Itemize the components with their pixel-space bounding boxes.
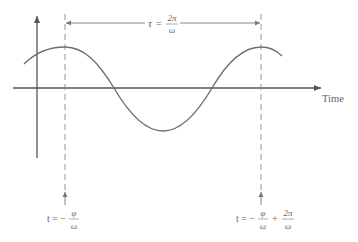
period-plus: +: [272, 213, 278, 224]
tau-equals: =: [156, 18, 162, 29]
period-marker-label: t = − φ ω + 2π ω: [236, 208, 294, 231]
sinusoid-diagram: τ = 2π ω Time t = − φ ω t = − φ ω + 2π ω: [0, 0, 358, 242]
x-axis-label: Time: [322, 93, 344, 104]
tau-denominator: ω: [169, 25, 175, 35]
phase-t: t: [47, 213, 50, 224]
period-t: t: [236, 213, 239, 224]
tau-numerator: 2π: [167, 13, 177, 23]
phase-denominator: ω: [71, 221, 77, 231]
phase-eq: = −: [52, 213, 66, 224]
period-frac2-numerator: 2π: [283, 208, 293, 218]
period-frac2-denominator: ω: [285, 221, 291, 231]
phase-numerator: φ: [72, 208, 77, 218]
period-label: τ = 2π ω: [148, 13, 178, 35]
period-frac1-numerator: φ: [261, 208, 266, 218]
sinusoid-curve: [24, 47, 282, 131]
period-frac1-denominator: ω: [260, 221, 266, 231]
tau-symbol: τ: [148, 17, 153, 29]
period-eq: = −: [241, 213, 255, 224]
phase-marker-label: t = − φ ω: [47, 208, 79, 231]
